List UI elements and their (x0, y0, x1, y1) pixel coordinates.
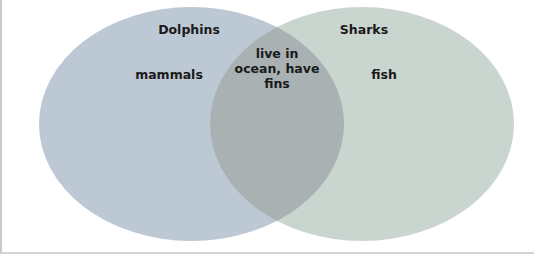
sharks-title: Sharks (340, 22, 388, 37)
dolphins-unique-label: mammals (135, 67, 203, 82)
sharks-unique-label: fish (371, 67, 397, 82)
venn-diagram-frame: Dolphins mammals Sharks fish live in oce… (0, 0, 534, 254)
overlap-label-line-3: fins (264, 76, 290, 91)
overlap-label-line-2: ocean, have (235, 61, 320, 76)
dolphins-title: Dolphins (158, 22, 220, 37)
venn-diagram: Dolphins mammals Sharks fish live in oce… (2, 0, 534, 254)
overlap-label-line-1: live in (256, 46, 299, 61)
